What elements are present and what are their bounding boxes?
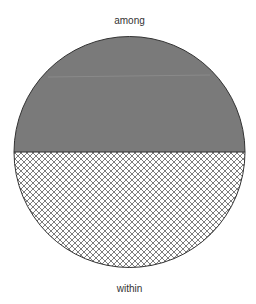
pie-chart: among within (0, 0, 256, 304)
pie-slice-within (14, 152, 245, 267)
pie-slice-among (14, 37, 245, 152)
slice-label-within: within (116, 283, 143, 294)
slice-label-among: among (114, 15, 145, 26)
